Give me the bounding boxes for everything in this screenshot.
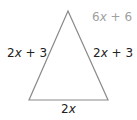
left-side-var: x: [15, 46, 22, 60]
left-side-label: 2x + 3: [7, 46, 47, 60]
perimeter-label: 6x + 6: [92, 10, 132, 24]
base-var: x: [69, 102, 76, 116]
left-side-rest: + 3: [22, 46, 47, 60]
right-side-coef: 2: [93, 46, 101, 60]
right-side-label: 2x + 3: [93, 46, 133, 60]
perimeter-var: x: [100, 10, 107, 24]
perimeter-coef: 6: [92, 10, 100, 24]
right-side-var: x: [101, 46, 108, 60]
perimeter-rest: + 6: [107, 10, 132, 24]
base-coef: 2: [61, 102, 69, 116]
base-label: 2x: [61, 102, 76, 116]
right-side-rest: + 3: [108, 46, 133, 60]
left-side-coef: 2: [7, 46, 15, 60]
